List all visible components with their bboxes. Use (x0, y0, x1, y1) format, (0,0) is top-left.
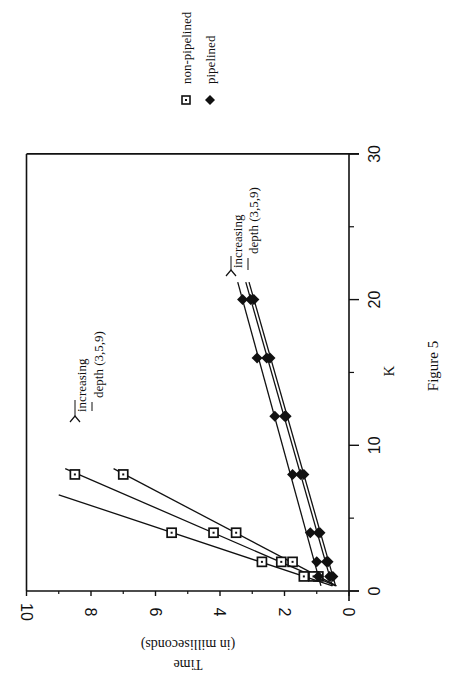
series-non-pipelined-depth-5 (65, 469, 335, 586)
figure-caption: Figure 5 (425, 341, 441, 391)
time-tick-label: 4 (211, 608, 228, 617)
k-tick-label: 0 (366, 586, 383, 595)
series-pipelined-depth-3 (248, 282, 338, 586)
diamond-marker-icon (305, 527, 316, 538)
k-tick-label: 30 (366, 145, 383, 163)
time-axis-label-line2: (in milliseconds) (140, 636, 235, 652)
diamond-marker-icon (237, 294, 248, 305)
time-tick-label: 10 (18, 603, 35, 621)
time-tick-label: 0 (340, 608, 357, 617)
diamond-marker-icon (269, 411, 280, 422)
legend-item-pipelined: pipelined (203, 35, 218, 105)
annotation-line1: increasing (74, 358, 89, 412)
square-marker-icon (288, 557, 297, 566)
series-line (114, 469, 337, 586)
square-marker-icon (209, 528, 218, 537)
diamond-marker-icon (252, 352, 263, 363)
time-tick-label: 6 (147, 608, 164, 617)
k-axis-label: K (381, 365, 397, 376)
filled-diamond-icon (205, 95, 215, 105)
annotation-line2: depth (3,5,9) (246, 187, 261, 254)
line-chart: 0246810 0102030 non-pipelined pipelined (0, 0, 462, 697)
series-non-pipelined-depth-3 (114, 469, 337, 586)
series-layer (59, 282, 339, 586)
annotation-pipelined: increasing depth (3,5,9) (226, 187, 261, 276)
square-marker-icon (119, 470, 128, 479)
annotation-line2: depth (3,5,9) (91, 331, 106, 398)
square-marker-icon (167, 528, 176, 537)
square-marker-icon (277, 557, 286, 566)
series-line (246, 282, 333, 586)
k-tick-label: 20 (366, 291, 383, 309)
square-dot-icon (182, 96, 190, 104)
time-tick-label: 2 (276, 608, 293, 617)
series-pipelined-depth-5 (245, 282, 335, 586)
k-tick-label: 10 (366, 436, 383, 454)
square-marker-icon (70, 470, 79, 479)
series-line (249, 282, 336, 586)
time-axis-label: (in milliseconds) Time (140, 636, 235, 672)
time-axis-label-line1: Time (173, 657, 202, 672)
legend-item-non-pipelined: non-pipelined (179, 11, 194, 104)
time-axis: 0246810 (18, 591, 360, 621)
annotation-non-pipelined: increasing depth (3,5,9) (70, 331, 106, 422)
series-non-pipelined-depth-9 (59, 495, 333, 586)
square-marker-icon (232, 528, 241, 537)
rotated-figure: 0246810 0102030 non-pipelined pipelined (0, 0, 462, 697)
square-marker-icon (257, 557, 266, 566)
legend-label-non-pipelined: non-pipelined (179, 11, 194, 84)
series-line (59, 495, 333, 586)
square-marker-icon (299, 572, 308, 581)
series-line (65, 469, 335, 586)
k-axis: 0102030 (349, 145, 383, 601)
annotation-line1: increasing (230, 214, 245, 268)
time-tick-label: 8 (82, 608, 99, 617)
legend-label-pipelined: pipelined (203, 35, 218, 84)
legend: non-pipelined pipelined (179, 11, 218, 105)
